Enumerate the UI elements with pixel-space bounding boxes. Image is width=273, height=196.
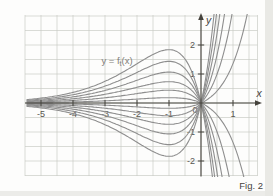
figure-caption: Fig. 2 [239, 180, 263, 191]
x-axis-label: x [255, 87, 262, 99]
curve-annotation: y = ft(x) [101, 55, 132, 67]
x-tick-label: -1 [165, 109, 173, 119]
x-tick-label: -5 [37, 109, 45, 119]
y-tick-label: 2 [190, 40, 195, 50]
function-family-chart: -5-4-3-2-1121-1-2 0 x y y = ft(x) Fig. 2 [0, 0, 273, 196]
annotation-prefix: y = f [101, 55, 120, 66]
annotation-suffix: (x) [122, 55, 133, 66]
y-tick-label: -2 [187, 156, 195, 166]
x-axis-arrow-icon [255, 100, 262, 106]
x-tick-label: -2 [133, 109, 141, 119]
figure-scan: -5-4-3-2-1121-1-2 0 x y y = ft(x) Fig. 2 [0, 0, 273, 196]
x-tick-label: 1 [230, 109, 235, 119]
y-axis-arrow-icon [198, 13, 204, 20]
curve-path [27, 50, 217, 196]
x-tick-label: -3 [101, 109, 109, 119]
y-axis-label: y [205, 14, 212, 26]
